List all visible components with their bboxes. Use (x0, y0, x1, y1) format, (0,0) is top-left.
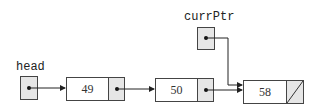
null-slash-icon (287, 81, 303, 103)
arrow-currptr-to-58 (206, 38, 242, 85)
pointer-arrows (0, 0, 317, 108)
